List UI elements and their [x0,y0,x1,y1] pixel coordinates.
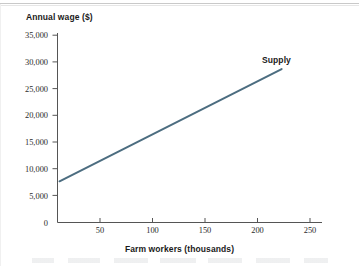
y-tick-label: 0 [44,219,48,228]
x-tick-label: 200 [251,226,264,235]
supply-line [60,69,282,181]
y-tick-label: 20,000 [25,111,48,120]
y-tick-label: 10,000 [25,165,48,174]
x-tick-label: 250 [304,226,317,235]
x-tick-label: 150 [199,226,212,235]
y-axis-tick-labels: 35,000 30,000 25,000 20,000 15,000 10,00… [25,31,48,227]
page-text-remnant [28,258,328,263]
y-tick-label: 25,000 [25,85,48,94]
x-tick-label: 50 [96,226,104,235]
chart-figure: Annual wage ($) 35,000 30,000 25,000 20,… [0,0,359,266]
y-axis-ticks [53,35,58,195]
y-tick-label: 35,000 [25,31,48,40]
x-axis-ticks [100,218,310,223]
x-axis-title: Farm workers (thousands) [0,244,359,254]
supply-series-label: Supply [262,55,291,65]
x-axis-tick-labels: 50 100 150 200 250 [96,226,316,235]
y-tick-label: 15,000 [25,138,48,147]
y-tick-label: 5,000 [29,192,48,201]
plot-area: 35,000 30,000 25,000 20,000 15,000 10,00… [0,0,359,266]
x-tick-label: 100 [146,226,159,235]
y-tick-label: 30,000 [25,58,48,67]
